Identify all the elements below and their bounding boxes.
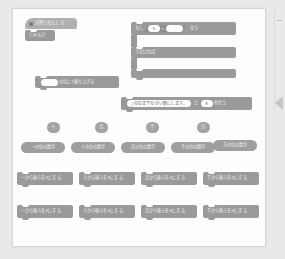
place-chip-label: 万 (201, 125, 206, 130)
zero-out-block-r2c1[interactable]: 十から後ろを0にする (79, 205, 135, 218)
zero-out-block-r2c3[interactable]: 千から後ろを0にする (203, 205, 259, 218)
seconds-suffix-label: 秒言う (214, 101, 226, 105)
zero-out-label: 一から後ろを0にする (21, 176, 61, 180)
place-chip-label: 千 (150, 125, 155, 130)
else-keyword-label: でなければ (135, 50, 156, 54)
seconds-slot[interactable]: 5 (201, 100, 213, 107)
digit-reporter-label: 一の位の数字 (31, 145, 56, 149)
zero-out-block-r1c0[interactable]: 一から後ろを0にする (17, 172, 73, 185)
zero-out-block-r2c2[interactable]: 百から後ろを0にする (141, 205, 197, 218)
zero-out-label: 千から後ろを0にする (207, 209, 247, 213)
carry-place-slot[interactable] (41, 79, 58, 86)
place-chip-0[interactable]: 十 (47, 122, 60, 133)
if-branch-spine (131, 35, 137, 47)
and-connector-label: と (194, 101, 198, 105)
place-chip-label: 百 (99, 125, 104, 130)
digit-reporter-label: 万の位の数字 (223, 143, 248, 147)
zero-out-label: 一から後ろを0にする (21, 209, 61, 213)
zero-out-block-r1c3[interactable]: 千から後ろを0にする (203, 172, 259, 185)
digit-reporter-3[interactable]: 千の位の数字 (171, 142, 215, 153)
when-flag-clicked-label: が押されたとき (35, 21, 64, 25)
place-chip-3[interactable]: 万 (197, 122, 210, 133)
zero-out-block-r1c2[interactable]: 百から後ろを0にする (141, 172, 197, 185)
edge-tick-marker (277, 20, 282, 21)
zero-out-label: 十から後ろを0にする (83, 209, 123, 213)
carry-up-block[interactable]: の位に1繰り上げる (35, 76, 119, 88)
digit-reporter-label: 千の位の数字 (181, 145, 206, 149)
digit-reporter-label: 百の位の数字 (131, 145, 156, 149)
say-for-seconds-block[interactable]: ○の位までのがい数にします。 と 5 秒言う (121, 97, 252, 110)
zero-out-block-r1c1[interactable]: 十から後ろを0にする (79, 172, 135, 185)
condition-hex-slot[interactable]: 4 = (144, 25, 186, 33)
script-canvas[interactable]: が押されたとき じゃんけ の位に1繰り上げる もし 4 = なら でなければ (12, 8, 266, 247)
say-block-label: じゃんけ (29, 33, 45, 37)
zero-out-label: 百から後ろを0にする (145, 209, 185, 213)
zero-out-block-r2c0[interactable]: 一から後ろを0にする (17, 205, 73, 218)
operand-left-slot[interactable]: 4 (148, 25, 160, 32)
if-block-footer[interactable] (131, 69, 236, 78)
if-block-header[interactable]: もし 4 = なら (131, 22, 236, 35)
zero-out-label: 千から後ろを0にする (207, 176, 247, 180)
else-bar[interactable]: でなければ (131, 47, 236, 58)
block-editor-window: が押されたとき じゃんけ の位に1繰り上げる もし 4 = なら でなければ (0, 0, 285, 259)
if-keyword-label: もし (135, 26, 143, 30)
zero-out-label: 百から後ろを0にする (145, 176, 185, 180)
place-chip-label: 十 (51, 125, 56, 130)
round-text-slot[interactable]: ○の位までのがい数にします。 (127, 100, 192, 107)
operator-label: = (161, 27, 164, 31)
green-flag-icon (29, 22, 33, 26)
digit-reporter-2[interactable]: 百の位の数字 (121, 142, 165, 153)
collapse-panel-arrow-icon[interactable] (275, 96, 283, 110)
operand-right-slot[interactable] (166, 25, 183, 32)
place-chip-1[interactable]: 百 (95, 122, 108, 133)
digit-reporter-0[interactable]: 一の位の数字 (21, 142, 65, 153)
digit-reporter-4[interactable]: 万の位の数字 (213, 140, 257, 151)
zero-out-label: 十から後ろを0にする (83, 176, 123, 180)
then-keyword-label: なら (190, 26, 198, 30)
carry-up-label: の位に1繰り上げる (59, 80, 95, 84)
say-block[interactable]: じゃんけ (25, 30, 55, 41)
digit-reporter-1[interactable]: 十の位の数字 (71, 142, 115, 153)
when-flag-clicked-block[interactable]: が押されたとき (25, 18, 77, 29)
place-chip-2[interactable]: 千 (146, 122, 159, 133)
digit-reporter-label: 十の位の数字 (81, 145, 106, 149)
else-branch-spine (131, 58, 137, 69)
